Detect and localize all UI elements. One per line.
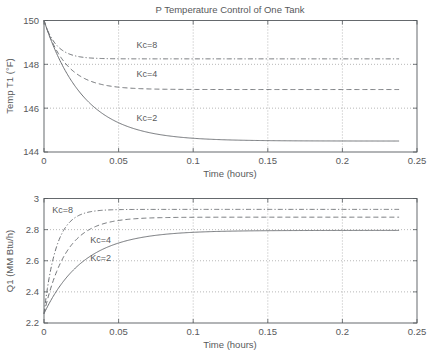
series-label-kc-8: Kc=8 (52, 205, 73, 215)
tick-marks-top (44, 21, 417, 153)
x-tick-label: 0.15 (259, 326, 278, 337)
x-tick-label: 0 (41, 155, 46, 166)
figure-canvas: P Temperature Control of One Tank 00.050… (0, 0, 441, 364)
tick-labels-bottom: 00.050.10.150.20.252.22.42.62.83 (26, 193, 426, 337)
x-tick-label: 0.1 (187, 326, 200, 337)
y-tick-label: 148 (23, 59, 39, 70)
y-tick-label: 2.2 (26, 317, 39, 328)
grid-lines-top (44, 21, 417, 153)
x-tick-label: 0 (41, 326, 46, 337)
series-label-kc-4: Kc=4 (137, 69, 158, 79)
y-axis-title-top: Temp T1 (°F) (4, 58, 15, 113)
chart-title: P Temperature Control of One Tank (156, 4, 305, 15)
tick-labels-top: 00.050.10.150.20.25144146148150 (23, 15, 426, 166)
y-tick-label: 2.4 (26, 286, 39, 297)
series-label-kc-4: Kc=4 (90, 235, 111, 245)
series-annotations-top: Kc=2Kc=4Kc=8 (137, 40, 158, 123)
y-tick-label: 150 (23, 15, 39, 26)
x-tick-label: 0.15 (259, 155, 278, 166)
data-curve-kc-4 (44, 21, 399, 90)
x-tick-label: 0.1 (187, 155, 200, 166)
y-tick-label: 144 (23, 146, 39, 157)
series-label-kc-8: Kc=8 (137, 40, 158, 50)
y-axis-title-bottom: Q1 (MM Btu/h) (4, 230, 15, 292)
x-tick-label: 0.05 (109, 326, 128, 337)
chart-heat-duty: 00.050.10.150.20.252.22.42.62.83 Kc=2Kc=… (4, 193, 426, 350)
chart-temperature: P Temperature Control of One Tank 00.050… (4, 4, 426, 179)
y-tick-label: 2.6 (26, 255, 39, 266)
data-curves-top (44, 21, 399, 142)
x-tick-label: 0.25 (408, 326, 427, 337)
data-curve-kc-2 (44, 21, 399, 142)
plot-frame-top (44, 21, 417, 153)
data-curve-kc-8 (44, 21, 399, 59)
x-tick-label: 0.25 (408, 155, 427, 166)
series-label-kc-2: Kc=2 (137, 113, 158, 123)
series-label-kc-2: Kc=2 (90, 253, 111, 263)
x-axis-title-bottom: Time (hours) (203, 339, 257, 350)
y-tick-label: 3 (34, 193, 39, 204)
y-tick-label: 146 (23, 103, 39, 114)
x-tick-label: 0.05 (109, 155, 128, 166)
y-tick-label: 2.8 (26, 224, 39, 235)
x-axis-title-top: Time (hours) (203, 168, 257, 179)
x-tick-label: 0.2 (336, 326, 349, 337)
x-tick-label: 0.2 (336, 155, 349, 166)
